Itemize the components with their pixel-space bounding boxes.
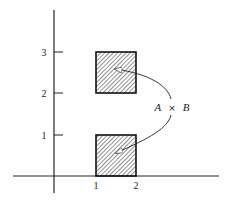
set-a-label: A [153,101,161,113]
diagram-svg: 3 2 1 1 2 A × B [0,0,231,200]
product-label: A × B [153,97,189,114]
set-b-label: B [183,101,190,113]
x-tick-label-1: 1 [94,180,99,191]
lower-square-region [96,135,136,176]
y-tick-label-1: 1 [42,130,47,141]
cartesian-product-diagram: 3 2 1 1 2 A × B [0,0,231,200]
times-operator: × [168,103,176,113]
y-tick-label-2: 2 [42,88,47,99]
upper-square-region [96,52,136,93]
y-tick-label-3: 3 [42,47,47,58]
x-tick-label-2: 2 [134,180,139,191]
